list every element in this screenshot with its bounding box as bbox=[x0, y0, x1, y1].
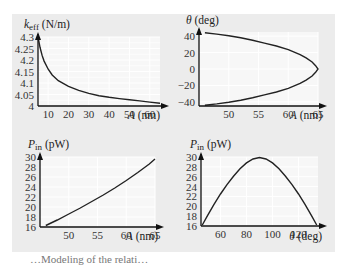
y-axis-label: Pin (pW) bbox=[27, 138, 69, 152]
x-tick-label: 10 bbox=[43, 108, 55, 120]
y-tick-label: 30 bbox=[25, 151, 37, 163]
y-tick-label: 4.25 bbox=[15, 43, 35, 55]
y-tick-label: 4.2 bbox=[20, 54, 34, 66]
y-tick-label: 40 bbox=[184, 30, 196, 42]
x-tick-label: 100 bbox=[264, 228, 281, 240]
chart-theta-vs-A: −40−200204050556065θ (deg)A (nm) bbox=[178, 14, 327, 122]
y-axis-arrow-icon bbox=[37, 152, 43, 160]
x-axis-arrow-icon bbox=[161, 103, 169, 109]
chart-keff-vs-A: 44.054.14.154.24.254.3102030405060keff (… bbox=[15, 18, 169, 122]
y-axis-label: θ (deg) bbox=[186, 14, 219, 27]
y-axis-arrow-icon bbox=[198, 152, 204, 160]
y-tick-label: 30 bbox=[186, 151, 198, 163]
x-axis-label: θ (deg) bbox=[289, 230, 322, 243]
x-tick-label: 30 bbox=[83, 108, 95, 120]
y-axis-arrow-icon bbox=[35, 32, 41, 40]
y-tick-label: 4.3 bbox=[20, 31, 34, 43]
y-tick-label: 0 bbox=[190, 63, 196, 75]
y-tick-label: 4.1 bbox=[20, 77, 34, 89]
x-tick-label: 40 bbox=[104, 108, 116, 120]
y-tick-label: 20 bbox=[184, 47, 196, 59]
y-tick-label: 4.05 bbox=[15, 89, 35, 101]
x-axis-label: A (nm) bbox=[289, 109, 322, 122]
chart-Pin-vs-A: 161820222426283050556065Pin (pW)A (nm) bbox=[25, 138, 164, 243]
x-axis-label: A (nm) bbox=[125, 230, 158, 243]
x-axis-label: A (nm) bbox=[127, 109, 160, 122]
y-axis-label: Pin (pW) bbox=[189, 138, 231, 152]
figure-plots: 44.054.14.154.24.254.3102030405060keff (… bbox=[0, 0, 343, 266]
x-tick-label: 55 bbox=[92, 229, 104, 241]
x-tick-label: 60 bbox=[215, 228, 227, 240]
y-tick-label: −20 bbox=[178, 79, 196, 91]
y-tick-label: 4.15 bbox=[15, 66, 35, 78]
chart-Pin-vs-theta: 16182022242628306080100120Pin (pW)θ (deg… bbox=[186, 138, 327, 243]
y-axis-label: keff (N/m) bbox=[24, 18, 70, 32]
y-tick-label: −40 bbox=[178, 96, 196, 108]
y-axis-arrow-icon bbox=[196, 27, 202, 35]
x-tick-label: 20 bbox=[63, 108, 75, 120]
figure-caption-fragment: …Modeling of the relati… bbox=[30, 253, 148, 265]
x-tick-label: 80 bbox=[241, 228, 253, 240]
x-tick-label: 55 bbox=[253, 108, 265, 120]
x-tick-label: 50 bbox=[223, 108, 235, 120]
x-axis-arrow-icon bbox=[319, 223, 327, 229]
y-tick-label: 4 bbox=[29, 100, 35, 112]
x-tick-label: 50 bbox=[63, 229, 75, 241]
